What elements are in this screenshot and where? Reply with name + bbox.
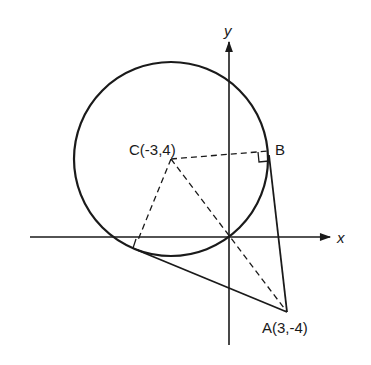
geometry-diagram: x y C(-3,4) B A(3,-4) <box>0 0 371 365</box>
tangent-ab <box>269 155 287 312</box>
radius-cb <box>171 151 269 159</box>
x-axis-label: x <box>336 229 345 246</box>
radius-ct <box>138 159 171 240</box>
point-a-label: A(3,-4) <box>262 319 308 336</box>
point-b-label: B <box>275 141 285 158</box>
tangent-at <box>137 250 287 312</box>
y-axis-label: y <box>223 22 233 39</box>
point-c-label: C(-3,4) <box>129 141 176 158</box>
